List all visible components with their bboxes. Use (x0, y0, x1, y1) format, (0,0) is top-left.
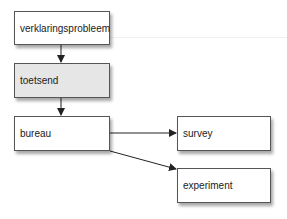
node-label: bureau (20, 128, 51, 139)
node-survey: survey (177, 116, 271, 151)
node-toetsend: toetsend (14, 63, 110, 98)
node-label: verklaringsprobleem (20, 23, 110, 34)
node-experiment: experiment (177, 168, 271, 203)
node-verklaringsprobleem: verklaringsprobleem (14, 11, 110, 45)
node-label: survey (183, 128, 212, 139)
node-bureau: bureau (14, 116, 110, 151)
node-label: toetsend (20, 75, 58, 86)
node-label: experiment (183, 180, 232, 191)
flow-diagram: verklaringsprobleem toetsend bureau surv… (0, 0, 287, 219)
edge-bureau-experiment (110, 151, 176, 169)
